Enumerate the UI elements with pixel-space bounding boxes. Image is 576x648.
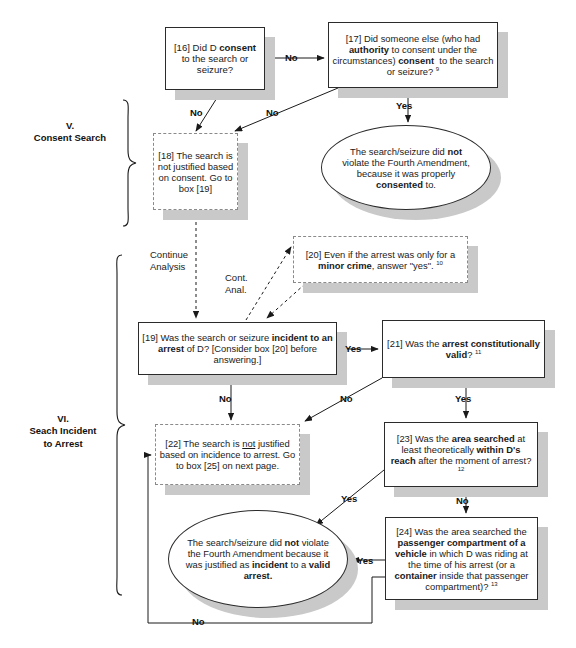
section-v-name: Consent Search — [34, 132, 106, 143]
node-17-text: [17] Did someone else (who had authority… — [329, 33, 497, 77]
node-22-text: [22] The search is not justified based o… — [156, 438, 299, 471]
node-16-text: [16] Did D consent to the search or seiz… — [166, 42, 264, 76]
node-oval-consent-text: The search/seizure did not violate the F… — [322, 146, 490, 190]
edge-label-21-22: No — [340, 393, 353, 404]
edge-label-19-22: No — [219, 393, 232, 404]
flowchart-canvas: [16] Did D consent to the search or seiz… — [0, 0, 576, 648]
edge-label-19-21: Yes — [345, 343, 361, 354]
edge-label-17-18: No — [266, 107, 279, 118]
edge-label-24-22: No — [192, 616, 205, 627]
edge-label-24-oval: Yes — [357, 555, 373, 566]
node-23-text: [23] Was the area searched at least theo… — [385, 433, 537, 477]
edge-label-23-24: No — [456, 495, 469, 506]
edge-label-18-19-line2: Analysis — [150, 261, 185, 273]
edge-label-18-19-line1: Continue — [150, 249, 188, 261]
node-19-text: [19] Was the search or seizure incident … — [139, 332, 336, 365]
node-oval-consent[interactable]: The search/seizure did not violate the F… — [321, 125, 491, 210]
section-label-vi: VI. Seach Incident to Arrest — [14, 413, 112, 450]
section-vi-name-line2: to Arrest — [43, 438, 82, 449]
section-vi-name-line1: Seach Incident — [29, 425, 96, 436]
edge-label-17-oval: Yes — [396, 100, 412, 111]
node-20[interactable]: [20] Even if the arrest was only for a m… — [293, 236, 468, 283]
edge-label-23-oval: Yes — [341, 493, 357, 504]
node-21-text: [21] Was the arrest constitutionally val… — [383, 338, 544, 360]
node-18-text: [18] The search is not justified based o… — [154, 150, 237, 194]
node-24-text: [24] Was the area searched the passenger… — [386, 526, 537, 592]
node-17[interactable]: [17] Did someone else (who had authority… — [328, 22, 498, 88]
node-oval-arrest[interactable]: The search/seizure did not violate the F… — [168, 510, 348, 608]
node-23[interactable]: [23] Was the area searched at least theo… — [384, 422, 538, 487]
edge-label-16-17: No — [285, 52, 298, 63]
section-v-numeral: V. — [66, 120, 74, 131]
node-19[interactable]: [19] Was the search or seizure incident … — [138, 322, 337, 375]
edge-label-19-20-line2: Anal. — [225, 284, 247, 296]
node-24[interactable]: [24] Was the area searched the passenger… — [385, 517, 538, 600]
section-vi-numeral: VI. — [57, 413, 69, 424]
edge-label-21-23: Yes — [455, 393, 471, 404]
node-18[interactable]: [18] The search is not justified based o… — [153, 133, 238, 210]
node-22[interactable]: [22] The search is not justified based o… — [155, 424, 300, 485]
edge-label-16-18: No — [190, 107, 203, 118]
node-16[interactable]: [16] Did D consent to the search or seiz… — [165, 27, 265, 90]
edge-label-19-20-line1: Cont. — [225, 272, 248, 284]
node-21[interactable]: [21] Was the arrest constitutionally val… — [382, 320, 545, 378]
node-oval-arrest-text: The search/seizure did not violate the F… — [169, 537, 347, 581]
node-20-text: [20] Even if the arrest was only for a m… — [294, 249, 467, 271]
section-label-v: V. Consent Search — [24, 120, 116, 145]
